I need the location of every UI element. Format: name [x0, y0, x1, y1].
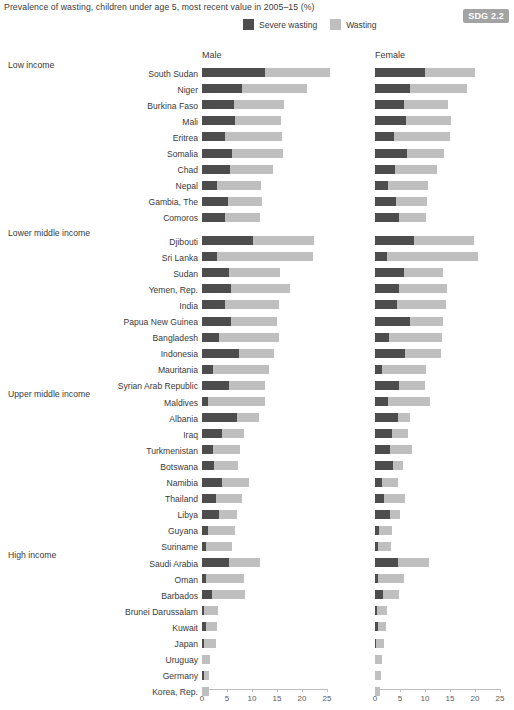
axis-tick-label-male: 25	[317, 694, 337, 703]
bar-segment-severe-wasting	[202, 510, 219, 519]
bar-segment-severe-wasting	[202, 606, 204, 615]
bar-male	[202, 445, 240, 454]
bar-segment-severe-wasting	[202, 197, 228, 206]
row-label: Sudan	[60, 269, 198, 279]
panel-title-male: Male	[202, 50, 222, 60]
row-label: Brunei Darussalam	[60, 607, 198, 617]
axis-tick-label-male: 15	[267, 694, 287, 703]
row-label: Germany	[60, 671, 198, 681]
bar-female	[375, 574, 404, 583]
bar-segment-wasting	[375, 252, 478, 261]
bar-segment-severe-wasting	[202, 445, 213, 454]
bar-segment-severe-wasting	[375, 494, 384, 503]
row-label: Chad	[60, 165, 198, 175]
bar-segment-severe-wasting	[202, 317, 231, 326]
bar-female	[375, 132, 450, 141]
bar-segment-wasting	[202, 606, 218, 615]
bar-segment-severe-wasting	[375, 639, 376, 648]
row-label: Burkina Faso	[60, 101, 198, 111]
axis-tick-male	[252, 689, 253, 692]
axis-tick-label-female: 20	[465, 694, 485, 703]
bar-male	[202, 68, 330, 77]
bar-male	[202, 300, 279, 309]
bar-segment-wasting	[375, 574, 404, 583]
bar-segment-severe-wasting	[375, 349, 405, 358]
axis-tick-female	[400, 689, 401, 692]
bar-segment-severe-wasting	[375, 526, 379, 535]
bar-segment-severe-wasting	[375, 116, 406, 125]
bar-segment-severe-wasting	[202, 558, 229, 567]
bar-segment-severe-wasting	[202, 213, 225, 222]
axis-tick-male	[302, 689, 303, 692]
row-label: Kuwait	[60, 623, 198, 633]
bar-segment-severe-wasting	[202, 165, 230, 174]
bar-male	[202, 590, 245, 599]
row-label: Papua New Guinea	[60, 317, 198, 327]
bar-segment-severe-wasting	[202, 590, 212, 599]
axis-tick-label-female: 0	[365, 694, 385, 703]
bar-segment-severe-wasting	[202, 526, 208, 535]
bar-segment-severe-wasting	[202, 429, 222, 438]
bar-segment-severe-wasting	[375, 213, 399, 222]
axis-tick-male	[277, 689, 278, 692]
bar-segment-severe-wasting	[375, 333, 389, 342]
row-label: Yemen, Rep.	[60, 285, 198, 295]
bar-female	[375, 639, 384, 648]
bar-female	[375, 181, 428, 190]
bar-segment-wasting	[375, 365, 426, 374]
bar-female	[375, 381, 425, 390]
bar-segment-severe-wasting	[375, 132, 394, 141]
bar-segment-severe-wasting	[375, 413, 398, 422]
bar-male	[202, 526, 235, 535]
bar-segment-severe-wasting	[202, 236, 253, 245]
row-label: Sri Lanka	[60, 253, 198, 263]
bar-segment-severe-wasting	[375, 574, 378, 583]
bar-male	[202, 197, 262, 206]
bar-female	[375, 558, 429, 567]
bar-segment-severe-wasting	[202, 671, 204, 680]
bar-segment-severe-wasting	[375, 478, 382, 487]
axis-tick-label-female: 10	[415, 694, 435, 703]
row-label: Maldives	[60, 398, 198, 408]
bar-female	[375, 349, 441, 358]
bar-segment-severe-wasting	[202, 622, 206, 631]
bar-segment-severe-wasting	[375, 445, 390, 454]
bar-male	[202, 213, 260, 222]
legend-label-wasting: Wasting	[346, 20, 376, 30]
bar-female	[375, 300, 446, 309]
bar-male	[202, 381, 265, 390]
bar-segment-severe-wasting	[202, 84, 242, 93]
wasting-prevalence-chart: Prevalence of wasting, children under ag…	[0, 0, 514, 710]
bar-segment-severe-wasting	[202, 132, 225, 141]
bar-segment-wasting	[202, 639, 216, 648]
bar-female	[375, 100, 448, 109]
chart-legend: Severe wasting Wasting	[243, 19, 385, 30]
row-label: Suriname	[60, 542, 198, 552]
bar-segment-wasting	[202, 655, 210, 664]
axis-tick-male	[202, 689, 203, 692]
bar-male	[202, 149, 283, 158]
bar-segment-severe-wasting	[202, 639, 204, 648]
bar-segment-severe-wasting	[202, 397, 208, 406]
bar-female	[375, 213, 426, 222]
bar-segment-severe-wasting	[202, 478, 222, 487]
bar-male	[202, 236, 314, 245]
row-label: Barbados	[60, 591, 198, 601]
axis-tick-label-male: 10	[242, 694, 262, 703]
bar-segment-severe-wasting	[375, 590, 383, 599]
bar-male	[202, 268, 280, 277]
bar-male	[202, 116, 281, 125]
bar-male	[202, 429, 244, 438]
bar-segment-severe-wasting	[375, 606, 377, 615]
bar-female	[375, 590, 399, 599]
row-label: Japan	[60, 639, 198, 649]
bar-segment-severe-wasting	[202, 284, 231, 293]
bar-female	[375, 655, 382, 664]
bar-segment-wasting	[202, 542, 232, 551]
axis-tick-female	[500, 689, 501, 692]
bar-male	[202, 165, 273, 174]
bar-male	[202, 181, 261, 190]
bar-segment-severe-wasting	[375, 365, 382, 374]
bar-male	[202, 84, 307, 93]
legend-swatch-severe-wasting	[243, 19, 254, 30]
